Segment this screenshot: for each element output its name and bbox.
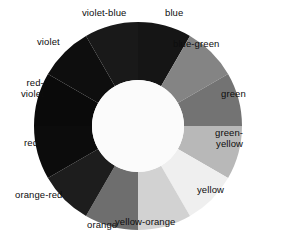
- wheel-center-hole: [92, 80, 184, 172]
- wheel-label-red-violet: red- violet: [21, 78, 44, 99]
- wheel-label-green-yellow: green- yellow: [215, 128, 243, 149]
- wheel-label-orange: orange: [87, 220, 117, 231]
- wheel-label-yellow-orange: yellow-orange: [115, 217, 175, 228]
- wheel-label-blue: blue: [165, 8, 183, 19]
- wheel-label-yellow: yellow: [197, 185, 224, 196]
- wheel-label-blue-green: blue-green: [173, 39, 219, 50]
- wheel-label-green: green: [221, 89, 246, 100]
- color-wheel-figure: violet-blueblueblue-greengreengreen- yel…: [0, 0, 283, 245]
- wheel-label-violet: violet: [37, 37, 60, 48]
- wheel-label-orange-red: orange-red: [15, 190, 62, 201]
- wheel-label-violet-blue: violet-blue: [82, 8, 126, 19]
- wheel-label-red: red: [24, 138, 38, 149]
